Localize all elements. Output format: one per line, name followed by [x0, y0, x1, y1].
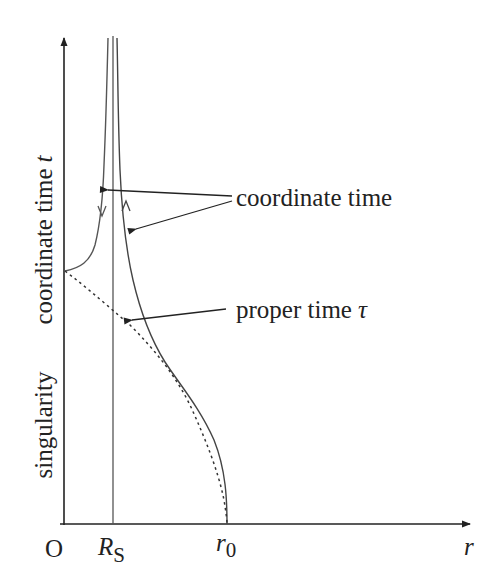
r0-sub: 0 [226, 538, 237, 562]
spacetime-diagram: coordinate time proper timeτ coordinate … [0, 0, 496, 587]
tau-symbol: τ [358, 296, 368, 323]
proper-time-text: proper time [236, 296, 352, 323]
x-axis-label: r [464, 533, 474, 560]
r0-tick-label: r0 [216, 529, 236, 562]
coordinate-time-label: coordinate time [236, 184, 392, 211]
rs-tick-label: RS [97, 533, 125, 567]
y-axis-label-text: coordinate time [30, 168, 57, 324]
pointer-to-outer-curve [136, 201, 232, 229]
pointer-to-proper-time [132, 309, 226, 320]
r0-main: r [216, 529, 226, 556]
proper-time-label: proper timeτ [236, 296, 368, 323]
proper-time-curve [65, 271, 227, 524]
up-arrow-icon [122, 201, 130, 211]
pointer-to-inner-curve [108, 190, 232, 196]
singularity-label: singularity [30, 371, 57, 478]
inner-coordinate-time-curve [65, 38, 108, 271]
y-axis-variable: t [30, 154, 57, 162]
down-arrow-icon [98, 206, 106, 216]
y-axis-label: coordinate timet [30, 154, 57, 324]
outer-coordinate-time-curve [117, 38, 227, 524]
origin-label: O [45, 535, 63, 562]
rs-sub: S [113, 543, 125, 567]
rs-main: R [97, 533, 113, 560]
